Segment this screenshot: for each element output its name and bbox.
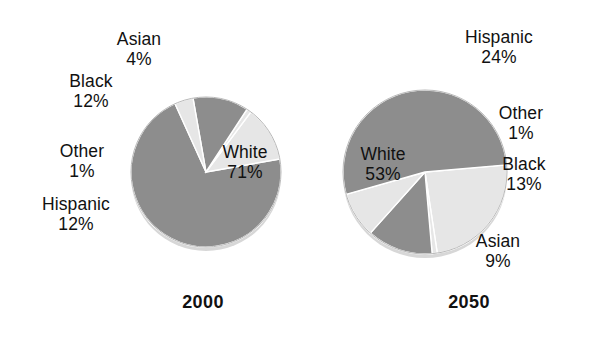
label-2050-asian-percent: 9% <box>455 252 541 272</box>
label-2050-asian: Asian 9% <box>455 232 541 271</box>
label-2000-asian-percent: 4% <box>96 50 182 70</box>
pie-chart-figure: Asian 4% Black 12% Other 1% Hispanic 12%… <box>0 0 606 338</box>
chart-2000: Asian 4% Black 12% Other 1% Hispanic 12%… <box>0 0 303 338</box>
label-2000-hispanic: Hispanic 12% <box>22 195 130 234</box>
label-2000-asian: Asian 4% <box>96 30 182 69</box>
label-2000-white-category: White <box>205 143 285 163</box>
label-2000-black: Black 12% <box>48 72 134 111</box>
label-2000-hispanic-percent: 12% <box>22 215 130 235</box>
label-2050-black-percent: 13% <box>481 175 567 195</box>
label-2000-asian-category: Asian <box>96 30 182 50</box>
label-2050-black-category: Black <box>481 155 567 175</box>
label-2050-white-percent: 53% <box>343 165 423 185</box>
label-2050-other-percent: 1% <box>478 124 564 144</box>
label-2000-white-percent: 71% <box>205 163 285 183</box>
label-2000-black-category: Black <box>48 72 134 92</box>
year-label-2000: 2000 <box>155 292 251 313</box>
label-2050-white: White 53% <box>343 145 423 184</box>
label-2000-white: White 71% <box>205 143 285 182</box>
label-2050-other-category: Other <box>478 104 564 124</box>
label-2050-black: Black 13% <box>481 155 567 194</box>
label-2050-hispanic-percent: 24% <box>443 48 555 68</box>
chart-2050: Hispanic 24% Other 1% Black 13% Asian 9%… <box>303 0 606 338</box>
label-2050-asian-category: Asian <box>455 232 541 252</box>
label-2050-hispanic: Hispanic 24% <box>443 28 555 67</box>
label-2050-hispanic-category: Hispanic <box>443 28 555 48</box>
label-2000-other: Other 1% <box>36 142 128 181</box>
year-label-2050: 2050 <box>421 292 517 313</box>
label-2000-other-percent: 1% <box>36 162 128 182</box>
label-2000-other-category: Other <box>36 142 128 162</box>
label-2050-white-category: White <box>343 145 423 165</box>
label-2050-other: Other 1% <box>478 104 564 143</box>
label-2000-hispanic-category: Hispanic <box>22 195 130 215</box>
label-2000-black-percent: 12% <box>48 92 134 112</box>
